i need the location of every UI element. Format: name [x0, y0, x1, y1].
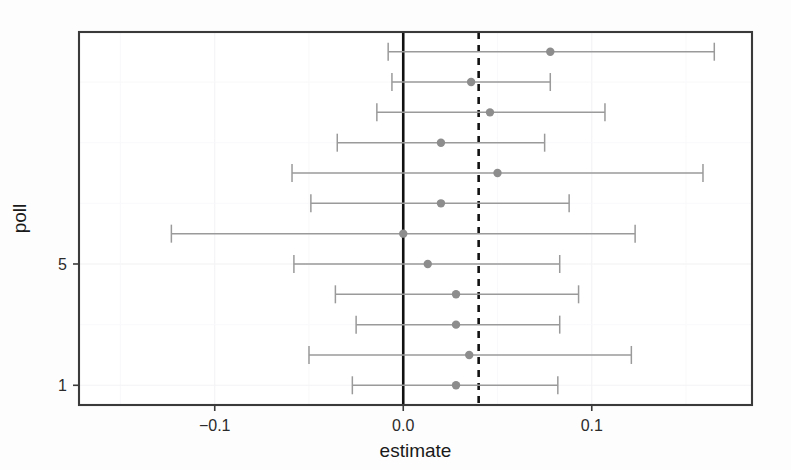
estimate-point [452, 290, 460, 298]
forest-plot-figure: −0.10.00.115estimatepoll estimate poll [0, 0, 791, 470]
estimate-point [467, 78, 475, 86]
estimate-point [424, 260, 432, 268]
estimate-point [437, 138, 445, 146]
x-axis-title: estimate [380, 440, 452, 461]
estimate-point [452, 320, 460, 328]
estimate-point [546, 48, 554, 56]
y-axis-title: poll [9, 204, 30, 234]
estimate-point [486, 108, 494, 116]
panel-background [79, 32, 752, 405]
estimate-point [399, 229, 407, 237]
y-tick-label-1: 5 [58, 256, 67, 273]
estimate-point [493, 169, 501, 177]
y-tick-label-0: 1 [58, 377, 67, 394]
x-tick-label-1: 0.0 [392, 417, 414, 434]
estimate-point [465, 351, 473, 359]
x-tick-label-2: 0.1 [581, 417, 603, 434]
estimate-point [452, 381, 460, 389]
plot-canvas: −0.10.00.115estimatepoll [0, 0, 791, 470]
estimate-point [437, 199, 445, 207]
x-tick-label-0: −0.1 [199, 417, 231, 434]
